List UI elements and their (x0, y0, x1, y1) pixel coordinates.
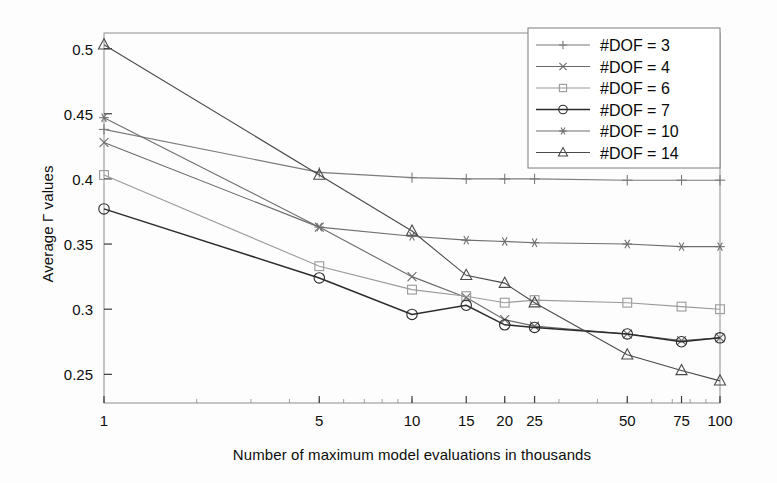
legend-label: #DOF = 3 (600, 37, 670, 54)
legend-label: #DOF = 10 (600, 123, 679, 140)
y-tick-label: 0.45 (64, 106, 93, 123)
legend-label: #DOF = 4 (600, 59, 670, 76)
series-line (104, 175, 720, 309)
x-tick-label: 75 (673, 412, 690, 429)
x-tick-label: 100 (707, 412, 732, 429)
x-tick-label: 20 (496, 412, 513, 429)
x-tick-label: 1 (100, 412, 108, 429)
series-line (104, 142, 720, 340)
series-line (104, 209, 720, 342)
y-tick-label: 0.4 (72, 171, 93, 188)
x-tick-label: 15 (458, 412, 475, 429)
y-tick-label: 0.3 (72, 301, 93, 318)
y-axis-label: Average Γ values (39, 165, 56, 282)
x-axis-label-wrapper: Number of maximum model evaluations in t… (104, 446, 720, 464)
x-tick-label: 50 (619, 412, 636, 429)
legend-label: #DOF = 6 (600, 80, 670, 97)
chart-figure: 151015202550751000.250.30.350.40.450.5#D… (0, 0, 777, 483)
x-tick-label: 25 (526, 412, 543, 429)
marker-triangle (461, 269, 472, 279)
y-tick-label: 0.35 (64, 236, 93, 253)
x-tick-label: 5 (315, 412, 323, 429)
legend-label: #DOF = 7 (600, 102, 670, 119)
marker-triangle (622, 349, 633, 359)
legend-label: #DOF = 14 (600, 145, 679, 162)
plot-area: 151015202550751000.250.30.350.40.450.5#D… (0, 0, 777, 483)
legend: #DOF = 3#DOF = 4#DOF = 6#DOF = 7#DOF = 1… (528, 28, 720, 168)
series-3 (100, 171, 725, 314)
y-axis-label-wrapper: Average Γ values (39, 124, 57, 324)
x-axis-label: Number of maximum model evaluations in t… (233, 446, 591, 463)
y-tick-label: 0.5 (72, 41, 93, 58)
y-tick-label: 0.25 (64, 366, 93, 383)
x-tick-label: 10 (404, 412, 421, 429)
